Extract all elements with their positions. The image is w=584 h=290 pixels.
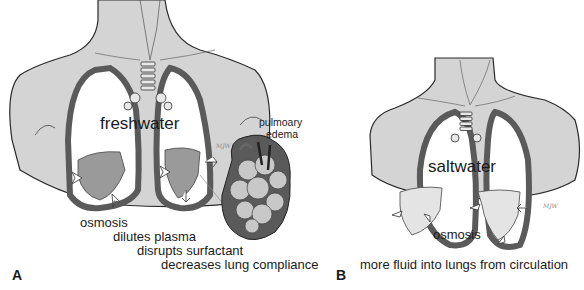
osmosis-label: osmosis [433, 228, 481, 241]
effect-decreases-compliance: decreases lung compliance [161, 258, 319, 271]
alveoli-inset [222, 135, 290, 240]
effect-disrupts-surfactant: disrupts surfactant [137, 244, 243, 257]
effect-dilutes-plasma: dilutes plasma [113, 230, 196, 243]
panel-label-a: A [12, 268, 22, 282]
effect-osmosis: osmosis [80, 216, 128, 229]
drowning-diagram: MJW [0, 0, 584, 290]
svg-text:MJW: MJW [542, 202, 559, 210]
freshwater-title: freshwater [100, 115, 179, 132]
svg-text:MJW: MJW [215, 142, 232, 150]
inset-label-line2: edema [266, 129, 298, 140]
effect-more-fluid: more fluid into lungs from circulation [360, 258, 568, 271]
panel-b-torso: MJW [370, 58, 580, 247]
inset-label-line1: pulmoary [259, 117, 302, 128]
panel-label-b: B [336, 268, 346, 282]
saltwater-title: saltwater [428, 158, 496, 175]
